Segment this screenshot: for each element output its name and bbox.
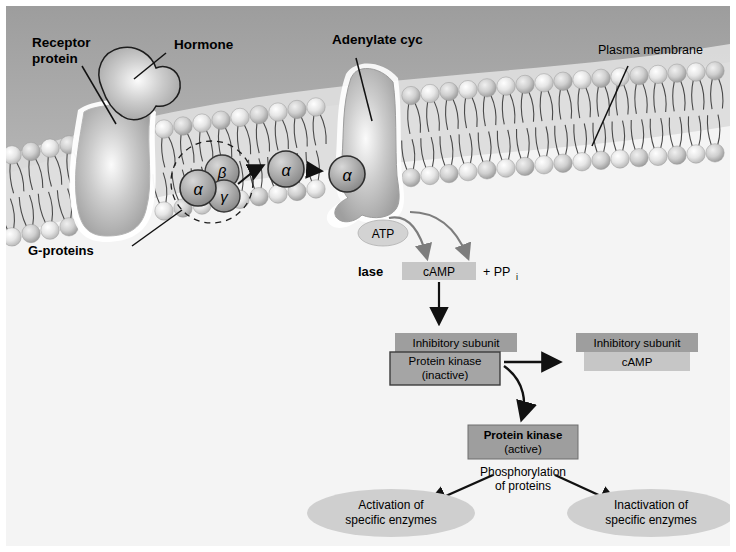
phospholipid-head	[630, 66, 648, 84]
phospholipid-head	[41, 139, 59, 157]
protein-kinase-inactive-state: (inactive)	[422, 369, 469, 381]
figure-canvas: β γ α α α ATP cAMP + PP i Inhibitory	[0, 0, 736, 552]
receptor-protein-label-line1: Receptor	[32, 35, 91, 50]
phosphorylation-line1: Phosphorylation	[480, 465, 566, 479]
phospholipid-head	[478, 79, 496, 97]
outcome-inactivation-line1: Inactivation of	[614, 498, 689, 512]
alpha-subunit-migrating-1[interactable]: α	[268, 151, 304, 187]
alpha-label-migrating-1: α	[281, 162, 291, 179]
atp-label: ATP	[372, 227, 394, 241]
phospholipid-head	[478, 161, 496, 179]
beta-label: β	[217, 164, 227, 181]
signal-transduction-diagram: β γ α α α ATP cAMP + PP i Inhibitory	[6, 6, 730, 546]
outcome-inactivation[interactable]: Inactivation of specific enzymes	[567, 489, 730, 537]
outcome-activation-line2: specific enzymes	[345, 513, 436, 527]
alpha-label-migrating-2: α	[342, 167, 352, 184]
phospholipid-head	[592, 69, 610, 87]
phospholipid-head	[250, 105, 268, 123]
phospholipid-head	[402, 168, 420, 186]
figure-inner-panel: β γ α α α ATP cAMP + PP i Inhibitory	[6, 6, 730, 546]
phospholipid-head	[611, 150, 629, 168]
phospholipid-head	[630, 148, 648, 166]
inhibitory-subunit-label-left: Inhibitory subunit	[413, 337, 501, 349]
protein-kinase-active-state: (active)	[504, 443, 542, 455]
alpha-label: α	[193, 181, 203, 198]
phospholipid-head	[459, 162, 477, 180]
phospholipid-head	[497, 77, 515, 95]
phospholipid-head	[687, 63, 705, 81]
g-protein-alpha-subunit[interactable]: α	[180, 170, 216, 206]
protein-kinase-inactive-name: Protein kinase	[409, 355, 482, 367]
phosphorylation-line2: of proteins	[495, 479, 551, 493]
phospholipid-head	[554, 154, 572, 172]
phospholipid-head	[535, 74, 553, 92]
phospholipid-head	[402, 86, 420, 104]
adenylate-cyclase-label-bottom: lase	[358, 264, 383, 279]
phospholipid-head	[231, 108, 249, 126]
phospholipid-head	[573, 71, 591, 89]
phospholipid-head	[535, 156, 553, 174]
phospholipid-head	[459, 80, 477, 98]
outcome-activation-line1: Activation of	[358, 498, 424, 512]
phospholipid-head	[288, 100, 306, 118]
camp-label: cAMP	[423, 265, 455, 279]
phospholipid-head	[649, 147, 667, 165]
kinase-released-complex[interactable]: Inhibitory subunit cAMP	[576, 333, 698, 371]
g-proteins-label: G-proteins	[28, 243, 94, 258]
phospholipid-head	[649, 65, 667, 83]
pyrophosphate-label: + PP	[483, 265, 510, 279]
atp-molecule[interactable]: ATP	[358, 220, 408, 246]
phospholipid-head	[421, 166, 439, 184]
phospholipid-head	[668, 64, 686, 82]
phospholipid-head	[269, 103, 287, 121]
kinase-inactive-complex[interactable]: Inhibitory subunit Protein kinase (inact…	[390, 333, 517, 385]
pyrophosphate-subscript: i	[516, 272, 518, 282]
phospholipid-head	[307, 98, 325, 116]
hormone-label: Hormone	[174, 37, 234, 52]
phospholipid-head	[22, 142, 40, 160]
phospholipid-head	[174, 117, 192, 135]
adenylate-cyclase-label-top: Adenylate cyc	[332, 32, 423, 47]
bound-camp-label: cAMP	[622, 356, 653, 368]
outcome-activation[interactable]: Activation of specific enzymes	[307, 489, 475, 537]
migration-arrow-2	[308, 170, 320, 171]
phospholipid-head	[212, 111, 230, 129]
phospholipid-head	[516, 75, 534, 93]
phospholipid-head	[554, 72, 572, 90]
receptor-protein-label-line2: protein	[32, 51, 78, 66]
phospholipid-head	[706, 62, 724, 80]
phospholipid-head	[668, 146, 686, 164]
phospholipid-head	[440, 82, 458, 100]
phospholipid-head	[193, 114, 211, 132]
phospholipid-head	[497, 159, 515, 177]
phospholipid-head	[687, 145, 705, 163]
plasma-membrane-label: Plasma membrane	[598, 43, 703, 57]
phospholipid-head	[706, 144, 724, 162]
phospholipid-head	[440, 164, 458, 182]
phospholipid-head	[516, 157, 534, 175]
phospholipid-head	[421, 84, 439, 102]
phospholipid-head	[307, 180, 325, 198]
phospholipid-head	[155, 120, 173, 138]
protein-kinase-active-name: Protein kinase	[484, 429, 563, 441]
receptor-protein[interactable]	[70, 100, 156, 243]
phospholipid-head	[41, 221, 59, 239]
phospholipid-head	[250, 187, 268, 205]
phospholipid-head	[592, 151, 610, 169]
phospholipid-head	[22, 224, 40, 242]
kinase-active-box-group[interactable]: Protein kinase (active)	[468, 425, 578, 459]
alpha-subunit-migrating-2[interactable]: α	[329, 156, 365, 192]
inhibitory-subunit-label-right: Inhibitory subunit	[594, 337, 682, 349]
phospholipid-head	[573, 153, 591, 171]
outcome-inactivation-line2: specific enzymes	[605, 513, 696, 527]
